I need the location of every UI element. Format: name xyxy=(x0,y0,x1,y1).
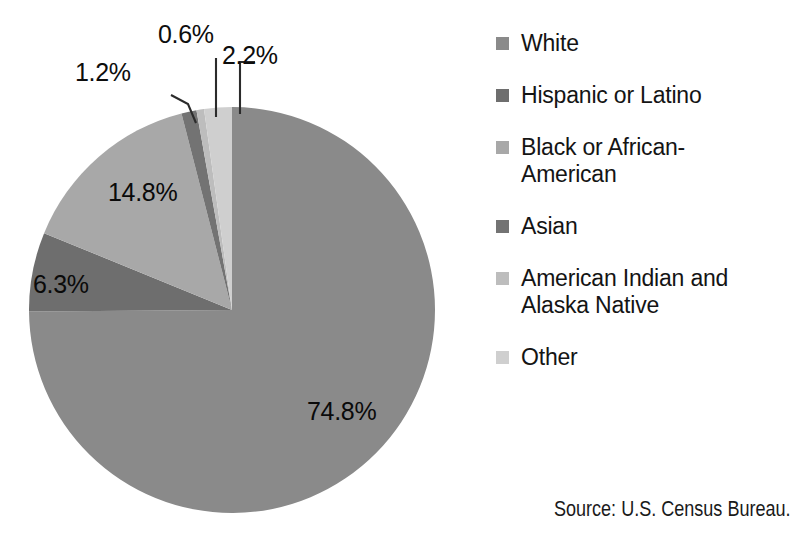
legend-swatch-icon-asian xyxy=(496,220,509,233)
slice-label-american-indian: 0.6% xyxy=(158,20,214,49)
pie-slice-group xyxy=(29,107,435,513)
legend-swatch-icon-american-indian xyxy=(496,272,509,285)
legend-swatch-icon-black xyxy=(496,141,509,154)
source-note: Source: U.S. Census Bureau. xyxy=(554,496,791,522)
slice-label-hispanic: 6.3% xyxy=(33,270,89,299)
legend-item-white[interactable]: White xyxy=(496,30,796,57)
slice-label-black: 14.8% xyxy=(108,178,177,207)
legend-item-american-indian[interactable]: American Indian and Alaska Native xyxy=(496,265,796,319)
slice-label-asian: 1.2% xyxy=(75,58,131,87)
legend-item-asian[interactable]: Asian xyxy=(496,213,796,240)
legend-label-american-indian: American Indian and Alaska Native xyxy=(521,265,761,319)
legend-item-hispanic[interactable]: Hispanic or Latino xyxy=(496,82,796,109)
legend-label-white: White xyxy=(521,30,579,57)
pie-chart-area: 74.8% 14.8% 6.3% 1.2% 0.6% 2.2% xyxy=(0,0,480,546)
legend-item-black[interactable]: Black or African-American xyxy=(496,134,796,188)
legend-label-other: Other xyxy=(521,344,578,371)
legend-label-black: Black or African-American xyxy=(521,134,761,188)
legend-swatch-icon-hispanic xyxy=(496,89,509,102)
chart-legend: White Hispanic or Latino Black or Africa… xyxy=(496,30,796,396)
legend-swatch-icon-other xyxy=(496,351,509,364)
chart-page: 74.8% 14.8% 6.3% 1.2% 0.6% 2.2% White Hi… xyxy=(0,0,803,546)
slice-label-white: 74.8% xyxy=(307,397,376,426)
legend-label-hispanic: Hispanic or Latino xyxy=(521,82,702,109)
legend-label-asian: Asian xyxy=(521,213,578,240)
legend-swatch-icon-white xyxy=(496,37,509,50)
legend-item-other[interactable]: Other xyxy=(496,344,796,371)
slice-label-other: 2.2% xyxy=(222,41,278,70)
